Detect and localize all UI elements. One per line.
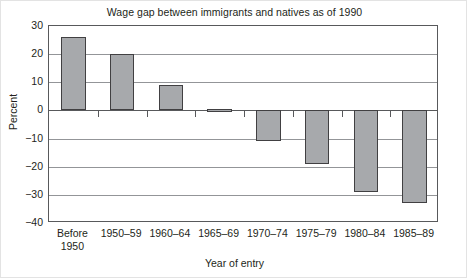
category-tick	[390, 110, 391, 117]
x-tick-label: 1950–59	[97, 227, 146, 240]
chart-figure: Wage gap between immigrants and natives …	[0, 0, 467, 278]
x-tick-label: 1960–64	[146, 227, 195, 240]
y-tick-label: 30	[3, 20, 43, 31]
bar	[354, 110, 378, 192]
y-tick-label: −10	[3, 133, 43, 144]
plot-area	[48, 25, 438, 222]
x-tick-label: 1975–79	[292, 227, 341, 240]
plot-inner	[49, 26, 437, 221]
chart-title: Wage gap between immigrants and natives …	[1, 6, 467, 18]
gridline	[49, 195, 437, 196]
bar	[256, 110, 280, 141]
gridline	[49, 167, 437, 168]
category-tick	[195, 110, 196, 117]
x-tick-label: 1980–84	[341, 227, 390, 240]
category-tick	[293, 110, 294, 117]
x-axis-title: Year of entry	[1, 257, 467, 269]
bar	[305, 110, 329, 163]
x-tick-label: 1965–69	[194, 227, 243, 240]
bar	[207, 109, 231, 112]
bar	[110, 54, 134, 110]
y-tick-label: 20	[3, 48, 43, 59]
gridline	[49, 139, 437, 140]
x-tick-label: 1970–74	[243, 227, 292, 240]
x-tick-label: Before1950	[48, 227, 97, 252]
category-tick	[244, 110, 245, 117]
category-tick	[98, 110, 99, 117]
x-tick-label: 1985–89	[389, 227, 438, 240]
y-tick-label: 0	[3, 104, 43, 115]
gridline	[49, 82, 437, 83]
y-tick-label: −20	[3, 161, 43, 172]
y-tick-label: 10	[3, 76, 43, 87]
zero-line	[49, 110, 437, 111]
y-tick-label: −30	[3, 189, 43, 200]
category-tick	[342, 110, 343, 117]
y-tick-label: −40	[3, 217, 43, 228]
bar	[159, 85, 183, 110]
bar	[402, 110, 426, 203]
bar	[61, 37, 85, 110]
gridline	[49, 54, 437, 55]
category-tick	[147, 110, 148, 117]
